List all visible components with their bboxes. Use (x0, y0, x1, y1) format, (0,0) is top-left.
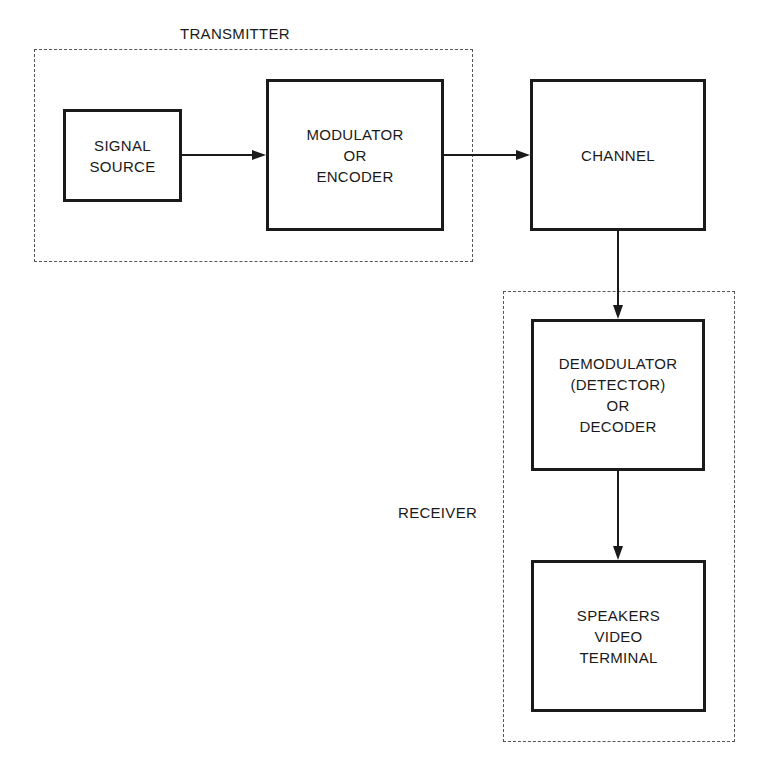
connection-arrows (0, 0, 763, 763)
arrow-channel-to-demodulator (613, 231, 623, 319)
arrow-modulator-to-channel (444, 150, 530, 160)
arrow-signal-to-modulator (182, 150, 266, 160)
arrow-demodulator-to-output (613, 471, 623, 560)
